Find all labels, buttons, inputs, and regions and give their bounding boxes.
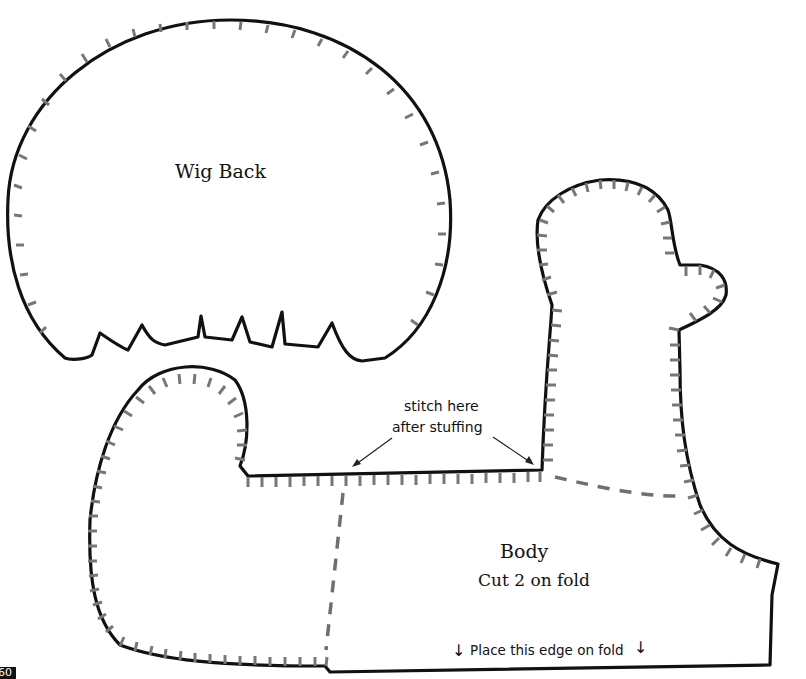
pattern-canvas [0,0,806,679]
body-dashed-line-left [326,493,343,650]
stitch-note-line2: after stuffing [392,419,483,435]
body-cut-instruction: Cut 2 on fold [478,570,590,590]
page-number: 60 [0,667,12,679]
body-dashed-line-right [555,477,683,496]
wig-back-piece [8,20,451,361]
page-number-badge: 60 [0,667,16,679]
wig-back-label: Wig Back [175,160,266,182]
body-label: Body [500,540,548,562]
fold-arrow-down-icon: ↓ [634,638,647,657]
stitch-arrows [352,437,534,467]
wig-back-outline [8,20,451,361]
stitch-note-line1: stitch here [404,398,479,414]
fold-arrow-down-icon: ↓ [452,641,465,660]
fold-instruction: Place this edge on fold [470,642,624,658]
